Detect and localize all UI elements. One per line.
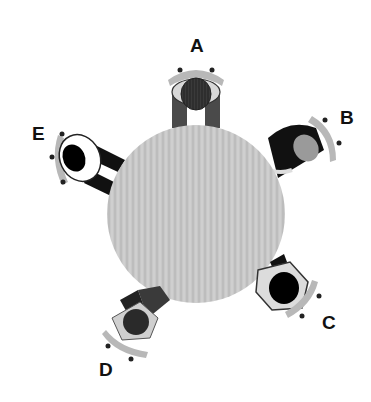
seat-e-chair-leg (50, 155, 55, 160)
seat-d-head (123, 309, 149, 335)
seat-e-chair-leg (60, 132, 65, 137)
seat-d (102, 286, 170, 362)
seat-label-b: B (340, 108, 354, 127)
seat-c-chair-leg (300, 314, 305, 319)
seat-b (265, 116, 342, 178)
seat-label-d: D (99, 360, 113, 379)
seating-diagram: A B C D E (0, 0, 371, 402)
seat-d-chair-leg (129, 357, 134, 362)
seat-label-e: E (32, 124, 45, 143)
seat-a-chair-leg (178, 68, 183, 73)
seat-b-chair-leg (323, 118, 328, 123)
seat-label-a: A (190, 36, 204, 55)
seat-c-chair-leg (317, 294, 322, 299)
seat-b-chair-leg (337, 141, 342, 146)
diagram-canvas (0, 0, 371, 402)
seat-d-chair-leg (106, 344, 111, 349)
seat-e-chair-leg (61, 180, 66, 185)
seat-a (168, 68, 224, 129)
seat-a-head (181, 78, 211, 110)
seat-a-chair-leg (210, 68, 215, 73)
seat-c-head (269, 272, 299, 304)
seat-label-c: C (322, 313, 336, 332)
